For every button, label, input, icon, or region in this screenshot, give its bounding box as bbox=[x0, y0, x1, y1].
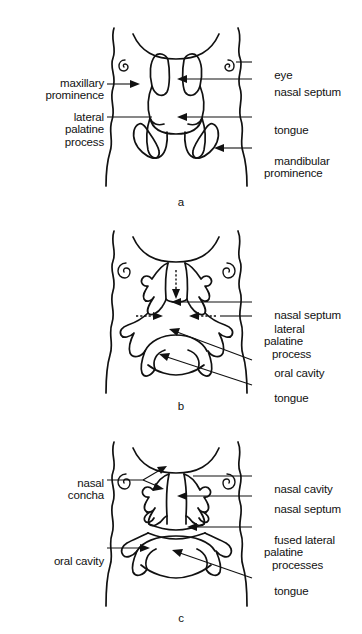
label-lateral-palatine-process: lateralpalatineprocess bbox=[0, 98, 104, 174]
label-line: lateral bbox=[74, 111, 104, 123]
label-line: nasal septum bbox=[274, 86, 341, 98]
arrowhead-maxillary-prominence bbox=[130, 80, 140, 88]
panel-a: maxillaryprominence lateralpalatineproce… bbox=[0, 0, 362, 215]
nasal-cavity-right bbox=[184, 474, 211, 526]
head-outline-right bbox=[238, 442, 247, 606]
leader-tongue bbox=[167, 357, 252, 385]
label-line: prominence bbox=[256, 167, 330, 180]
arrowhead-tongue bbox=[172, 549, 183, 557]
label-line: oral cavity bbox=[54, 555, 104, 567]
label-line: fused lateral bbox=[274, 534, 335, 546]
arrowhead-right-shelf bbox=[189, 312, 199, 320]
eye-left-icon bbox=[118, 474, 130, 489]
brow-line bbox=[133, 237, 219, 262]
label-line: lateral bbox=[274, 323, 304, 335]
label-line: concha bbox=[0, 489, 104, 502]
brow-line bbox=[133, 34, 219, 59]
label-line: tongue bbox=[274, 124, 308, 136]
nasal-chamber-left bbox=[150, 54, 169, 95]
label-tongue: tongue bbox=[256, 572, 309, 610]
arrowhead-tongue bbox=[177, 113, 187, 121]
head-outline-left bbox=[106, 231, 114, 393]
nasal-chamber-left bbox=[141, 263, 168, 315]
label-line: palatine bbox=[256, 546, 335, 559]
label-line: nasal septum bbox=[274, 503, 341, 515]
label-line: mandibular bbox=[274, 155, 329, 167]
panel-b: nasal septum lateralpalatineprocess oral… bbox=[0, 215, 362, 420]
eye-right-icon bbox=[225, 60, 234, 71]
head-outline-left bbox=[106, 442, 114, 606]
panel-letter-b: b bbox=[0, 400, 362, 412]
arrowhead-fused-palatine bbox=[187, 523, 197, 531]
label-line: oral cavity bbox=[274, 367, 324, 379]
arrowhead-septum-descent bbox=[172, 289, 180, 299]
label-line: tongue bbox=[274, 585, 308, 597]
label-line: processes bbox=[256, 559, 335, 572]
label-nasal-concha: nasalconcha bbox=[0, 464, 104, 527]
tongue-base bbox=[141, 565, 211, 578]
head-outline-right bbox=[238, 231, 247, 393]
label-line: nasal bbox=[77, 477, 104, 489]
arrowhead-nasal-septum bbox=[177, 492, 187, 500]
label-line: palatine bbox=[256, 335, 311, 348]
nasal-chamber-right bbox=[183, 54, 202, 95]
arrowhead-nasal-septum bbox=[171, 298, 181, 306]
palate-development-figure: maxillaryprominence lateralpalatineproce… bbox=[0, 0, 362, 634]
panel-letter-c: c bbox=[0, 612, 362, 624]
maxilla-left bbox=[122, 533, 148, 575]
head-outline-right bbox=[238, 28, 247, 186]
leader-nasal-concha-branch-upper bbox=[143, 470, 160, 480]
eye-right-icon bbox=[223, 263, 235, 278]
arrowhead-nasal-concha-lower bbox=[153, 483, 164, 491]
label-nasal-septum: nasal septum bbox=[256, 73, 341, 111]
nasal-septum bbox=[167, 474, 187, 524]
eye-left-icon bbox=[118, 263, 130, 278]
eye-left-icon bbox=[119, 60, 128, 71]
label-line: palatine bbox=[0, 123, 104, 136]
nasal-septum-maxilla bbox=[148, 86, 203, 125]
label-oral-cavity: oral cavity bbox=[0, 542, 104, 580]
label-line: process bbox=[0, 136, 104, 149]
label-line: maxillary bbox=[60, 77, 104, 89]
panel-c: nasalconcha oral cavity nasal cavity nas… bbox=[0, 420, 362, 634]
arrowhead-left-shelf bbox=[153, 312, 163, 320]
nasal-chamber-right bbox=[185, 263, 212, 315]
panel-letter-a: a bbox=[0, 196, 362, 208]
arrowhead-tongue bbox=[159, 353, 170, 361]
brow-line bbox=[133, 448, 219, 473]
head-outline-left bbox=[106, 28, 114, 186]
arrowhead-oral-cavity bbox=[140, 544, 150, 552]
